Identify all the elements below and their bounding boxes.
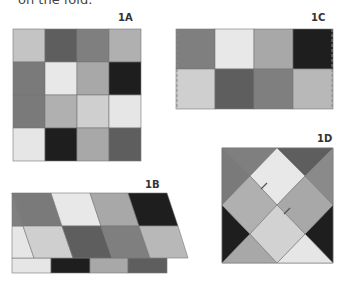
panel-1d xyxy=(222,148,333,263)
panel-1b xyxy=(12,193,188,273)
quilt-diagrams xyxy=(0,0,343,288)
panel-1c xyxy=(176,29,333,109)
panel-1a xyxy=(13,29,141,161)
